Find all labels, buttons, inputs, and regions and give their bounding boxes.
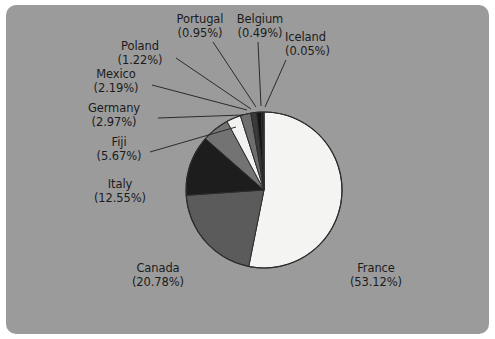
pie-slice-group (186, 112, 342, 268)
slice-label-belgium: Belgium (0.49%) (226, 13, 294, 40)
slice-label-italy-percent: (12.55%) (82, 192, 158, 206)
slice-label-belgium-name: Belgium (226, 13, 294, 27)
slice-label-germany-percent: (2.97%) (74, 116, 154, 130)
leader-line-iceland (265, 60, 286, 107)
pie-chart-canvas (0, 0, 495, 339)
slice-label-fiji-percent: (5.67%) (88, 150, 150, 164)
slice-label-mexico-percent: (2.19%) (82, 82, 150, 96)
pie-chart-figure: Portugal (0.95%) Belgium (0.49%) Iceland… (0, 0, 495, 339)
slice-label-italy: Italy (12.55%) (82, 178, 158, 205)
slice-label-germany-name: Germany (74, 102, 154, 116)
slice-label-france-percent: (53.12%) (334, 276, 418, 290)
slice-label-iceland: Iceland (0.05%) (285, 31, 359, 58)
leader-line-mexico (152, 85, 247, 110)
slice-label-poland-percent: (1.22%) (106, 54, 174, 68)
slice-label-fiji: Fiji (5.67%) (88, 136, 150, 163)
slice-label-fiji-name: Fiji (88, 136, 150, 150)
leader-line-belgium (258, 42, 261, 106)
slice-label-mexico: Mexico (2.19%) (82, 68, 150, 95)
slice-label-canada: Canada (20.78%) (116, 262, 200, 289)
slice-label-germany: Germany (2.97%) (74, 102, 154, 129)
slice-label-canada-percent: (20.78%) (116, 276, 200, 290)
slice-label-iceland-percent: (0.05%) (285, 45, 359, 59)
slice-label-belgium-percent: (0.49%) (226, 27, 294, 41)
slice-label-poland: Poland (1.22%) (106, 40, 174, 67)
slice-label-france-name: France (334, 262, 418, 276)
slice-label-mexico-name: Mexico (82, 68, 150, 82)
slice-label-iceland-name: Iceland (285, 31, 359, 45)
slice-label-france: France (53.12%) (334, 262, 418, 289)
slice-label-canada-name: Canada (116, 262, 200, 276)
leader-line-germany (158, 115, 243, 118)
slice-label-italy-name: Italy (82, 178, 158, 192)
slice-label-poland-name: Poland (106, 40, 174, 54)
